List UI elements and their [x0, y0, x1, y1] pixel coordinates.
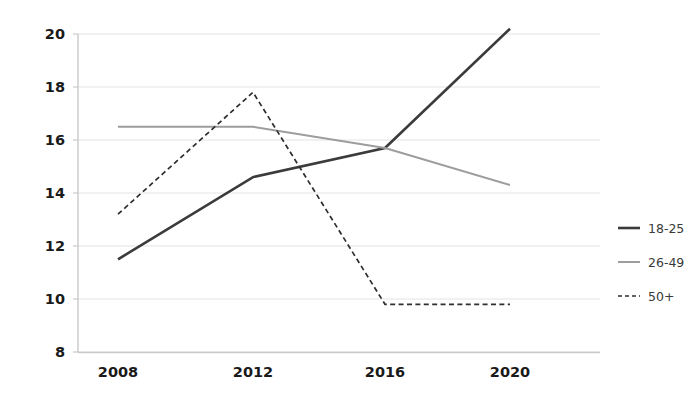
y-tick-label: 14 [45, 185, 65, 201]
chart-background [0, 0, 695, 401]
y-tick-label: 8 [55, 344, 65, 360]
x-tick-label: 2020 [490, 364, 530, 380]
y-tick-label: 18 [45, 79, 65, 95]
x-tick-label: 2008 [98, 364, 138, 380]
y-tick-label: 20 [45, 26, 65, 42]
y-tick-label: 12 [45, 238, 65, 254]
y-tick-label: 16 [45, 132, 65, 148]
chart-canvas: 8101214161820 2008201220162020 18-2526-4… [0, 0, 695, 401]
legend-label: 26-49 [648, 255, 684, 270]
legend-label: 50+ [648, 289, 674, 304]
x-tick-label: 2012 [233, 364, 273, 380]
line-chart: 8101214161820 2008201220162020 18-2526-4… [0, 0, 695, 401]
x-tick-label: 2016 [365, 364, 405, 380]
legend-label: 18-25 [648, 221, 684, 236]
y-tick-label: 10 [45, 291, 65, 307]
